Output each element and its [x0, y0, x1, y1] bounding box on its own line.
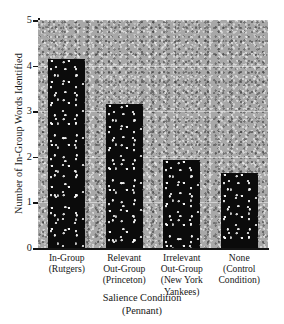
bar [106, 104, 143, 248]
x-tick-label: In-Group(Rutgers) [38, 252, 96, 274]
y-tick-label: 2 [18, 152, 32, 162]
y-tick-label: 1 [18, 197, 32, 207]
x-tick-label-line: Condition) [211, 274, 269, 285]
x-axis-line [37, 248, 269, 250]
x-tick-label-line: Out-Group [96, 263, 154, 274]
x-axis-title: Salience Condition (Pennant) [0, 292, 284, 317]
y-tick-label: 5 [18, 15, 32, 25]
x-tick-label: None(ControlCondition) [211, 252, 269, 286]
plot-area [38, 20, 268, 248]
y-tick-label: 3 [18, 106, 32, 116]
x-tick-label: IrrelevantOut-Group(New YorkYankees) [153, 252, 211, 297]
x-tick-label-line: (Princeton) [96, 274, 154, 285]
x-tick-label: RelevantOut-Group(Princeton) [96, 252, 154, 286]
bar [221, 173, 258, 248]
x-tick-label-line: (New York [153, 274, 211, 285]
x-tick-label-line: None [211, 252, 269, 263]
x-axis-title-main: Salience Condition [0, 292, 284, 305]
x-tick-label-line: Relevant [96, 252, 154, 263]
x-tick-label-line: (Control [211, 263, 269, 274]
bar-chart-figure: Number of In-Group Words Identified 0123… [0, 0, 284, 324]
y-tick-mark [33, 248, 39, 250]
y-axis-title: Number of In-Group Words Identified [13, 23, 24, 245]
y-tick-label: 4 [18, 61, 32, 71]
bar [48, 59, 85, 248]
x-tick-label-line: Irrelevant [153, 252, 211, 263]
x-tick-label-line: Out-Group [153, 263, 211, 274]
y-tick-label: 0 [18, 243, 32, 253]
x-tick-label-line: In-Group [38, 252, 96, 263]
x-axis-title-sub: (Pennant) [0, 305, 284, 318]
x-tick-label-line: (Rutgers) [38, 263, 96, 274]
bar [163, 160, 200, 248]
